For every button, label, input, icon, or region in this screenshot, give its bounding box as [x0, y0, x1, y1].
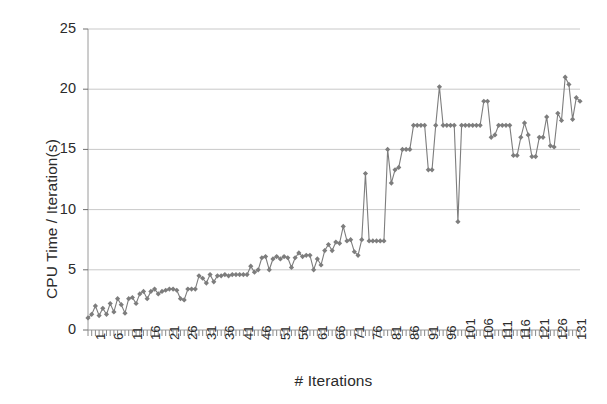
data-point-marker: [526, 132, 531, 137]
data-point-marker: [145, 296, 150, 301]
cpu-time-chart: 0510152025 16111621263136414651566166717…: [0, 0, 607, 404]
data-point-marker: [326, 242, 331, 247]
x-tick-label: 6: [111, 333, 126, 340]
x-tick-label: 126: [555, 318, 570, 340]
x-tick-label: 66: [333, 326, 348, 340]
x-axis-title: # Iterations: [235, 372, 373, 390]
data-point-marker: [522, 120, 527, 125]
x-tick-label: 11: [130, 327, 145, 341]
data-point-marker: [485, 99, 490, 104]
series-markers: [85, 75, 582, 321]
x-tick-label: 101: [463, 318, 478, 340]
plot-svg: [0, 0, 607, 404]
data-point-marker: [93, 303, 98, 308]
x-tick-label: 111: [500, 320, 515, 340]
x-axis-title-wrap: # Iterations: [0, 372, 607, 390]
data-point-marker: [267, 267, 272, 272]
y-tick-label: 25: [36, 20, 76, 36]
data-point-marker: [359, 237, 364, 242]
data-point-marker: [111, 309, 116, 314]
data-point-marker: [108, 301, 113, 306]
data-point-marker: [322, 248, 327, 253]
data-point-marker: [122, 311, 127, 316]
x-tick-label: 61: [315, 326, 330, 340]
data-point-marker: [555, 111, 560, 116]
data-point-marker: [311, 267, 316, 272]
data-point-marker: [307, 253, 312, 258]
data-point-marker: [566, 82, 571, 87]
x-tick-label: 16: [148, 326, 163, 340]
data-point-marker: [533, 154, 538, 159]
series-line: [88, 77, 580, 318]
data-point-marker: [570, 117, 575, 122]
data-point-marker: [563, 75, 568, 80]
x-tick-label: 21: [167, 326, 182, 340]
data-point-marker: [100, 306, 105, 311]
data-point-marker: [115, 296, 120, 301]
x-tick-label: 51: [278, 326, 293, 340]
data-point-marker: [330, 248, 335, 253]
data-point-marker: [389, 181, 394, 186]
x-tick-label: 26: [185, 326, 200, 340]
data-point-marker: [437, 84, 442, 89]
data-point-marker: [96, 313, 101, 318]
data-point-marker: [133, 301, 138, 306]
data-point-marker: [381, 238, 386, 243]
data-point-marker: [363, 171, 368, 176]
data-point-marker: [559, 118, 564, 123]
data-point-marker: [515, 153, 520, 158]
x-tick-label: 76: [370, 326, 385, 340]
x-tick-label: 56: [296, 326, 311, 340]
data-point-marker: [452, 123, 457, 128]
data-point-marker: [455, 219, 460, 224]
data-point-marker: [478, 123, 483, 128]
data-point-marker: [211, 279, 216, 284]
data-point-marker: [119, 302, 124, 307]
x-tick-label: 46: [259, 326, 274, 340]
x-tick-label: 106: [481, 318, 496, 340]
data-point-marker: [507, 123, 512, 128]
data-point-marker: [422, 123, 427, 128]
data-point-marker: [518, 135, 523, 140]
data-point-marker: [315, 256, 320, 261]
x-tick-label: 81: [389, 326, 404, 340]
data-point-marker: [193, 286, 198, 291]
axes: [83, 29, 88, 330]
x-tick-label: 31: [204, 326, 219, 340]
data-point-marker: [104, 312, 109, 317]
data-point-marker: [207, 272, 212, 277]
data-point-marker: [244, 272, 249, 277]
x-tick-label: 96: [444, 326, 459, 340]
data-point-marker: [248, 264, 253, 269]
data-point-marker: [385, 147, 390, 152]
y-axis-title-wrap: CPU Time / Iteration(s): [14, 60, 48, 310]
x-tick-label: 116: [518, 319, 533, 340]
data-point-marker: [318, 262, 323, 267]
data-point-marker: [433, 123, 438, 128]
x-tick-label: 1: [93, 333, 108, 340]
x-tick-label: 41: [241, 326, 256, 340]
x-tick-label: 71: [352, 326, 367, 340]
data-point-marker: [341, 224, 346, 229]
data-point-marker: [429, 167, 434, 172]
data-point-marker: [407, 147, 412, 152]
x-tick-label: 91: [426, 326, 441, 340]
x-tick-label: 36: [222, 326, 237, 340]
data-point-marker: [540, 135, 545, 140]
y-axis-title: CPU Time / Iteration(s): [43, 109, 61, 329]
x-tick-label: 86: [407, 326, 422, 340]
x-tick-label: 131: [574, 318, 589, 340]
data-point-marker: [289, 265, 294, 270]
data-point-marker: [544, 114, 549, 119]
gridlines: [88, 29, 580, 330]
x-tick-label: 121: [537, 318, 552, 340]
